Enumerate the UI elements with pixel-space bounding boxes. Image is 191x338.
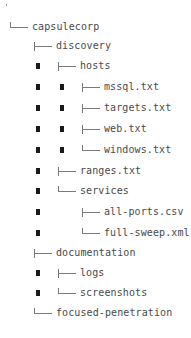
tree-tee-connector-icon	[82, 80, 102, 94]
tree-node-capsulecorp[interactable]: capsulecorp	[0, 20, 191, 34]
tree-tee-connector-icon	[82, 101, 102, 115]
tree-node-label: documentation	[56, 246, 136, 260]
tree-node-targets-txt[interactable]: targets.txt	[0, 101, 191, 115]
tree-node-all-ports-csv[interactable]: all-ports.csv	[0, 205, 191, 219]
tree-node-label: services	[80, 184, 129, 198]
tree-tee-connector-icon	[58, 266, 78, 280]
depth-marker-icon	[60, 105, 64, 111]
tree-node-label: full-sweep.xml	[104, 226, 190, 240]
tree-node-label: windows.txt	[104, 143, 171, 157]
depth-marker-icon	[36, 290, 40, 296]
tree-node-ranges-txt[interactable]: ranges.txt	[0, 164, 191, 178]
tree-node-label: logs	[80, 266, 104, 280]
tree-node-label: discovery	[56, 39, 111, 53]
tree-elbow-connector-icon	[58, 184, 78, 198]
root-dot-marker	[6, 4, 7, 6]
depth-marker-icon	[36, 105, 40, 111]
tree-tee-connector-icon	[58, 164, 78, 178]
tree-elbow-connector-icon	[82, 226, 102, 240]
tree-node-label: all-ports.csv	[104, 205, 184, 219]
tree-node-label: mssql.txt	[104, 80, 159, 94]
tree-node-label: web.txt	[104, 122, 147, 136]
tree-node-label: targets.txt	[104, 101, 171, 115]
tree-node-label: screenshots	[80, 286, 147, 300]
depth-marker-icon	[36, 270, 40, 276]
tree-node-label: capsulecorp	[32, 20, 99, 34]
tree-node-label: ranges.txt	[80, 164, 141, 178]
tree-node-web-txt[interactable]: web.txt	[0, 122, 191, 136]
depth-marker-icon	[36, 147, 40, 153]
tree-tee-connector-icon	[34, 246, 54, 260]
tree-node-logs[interactable]: logs	[0, 266, 191, 280]
tree-elbow-connector-icon	[58, 286, 78, 300]
depth-marker-icon	[36, 230, 40, 236]
depth-marker-icon	[60, 126, 64, 132]
tree-node-screenshots[interactable]: screenshots	[0, 286, 191, 300]
tree-node-full-sweep-xml[interactable]: full-sweep.xml	[0, 226, 191, 240]
tree-node-documentation[interactable]: documentation	[0, 246, 191, 260]
tree-node-focused-penetration[interactable]: focused-penetration	[0, 306, 191, 320]
depth-marker-icon	[36, 126, 40, 132]
depth-marker-icon	[36, 209, 40, 215]
depth-marker-icon	[60, 84, 64, 90]
depth-marker-icon	[36, 63, 40, 69]
tree-elbow-connector-icon	[10, 20, 30, 34]
tree-node-services[interactable]: services	[0, 184, 191, 198]
tree-node-hosts[interactable]: hosts	[0, 59, 191, 73]
tree-node-discovery[interactable]: discovery	[0, 39, 191, 53]
depth-marker-icon	[60, 147, 64, 153]
tree-tee-connector-icon	[34, 39, 54, 53]
tree-node-mssql-txt[interactable]: mssql.txt	[0, 80, 191, 94]
tree-node-label: hosts	[80, 59, 111, 73]
tree-tee-connector-icon	[82, 122, 102, 136]
tree-tee-connector-icon	[82, 205, 102, 219]
depth-marker-icon	[36, 84, 40, 90]
depth-marker-icon	[36, 168, 40, 174]
tree-elbow-connector-icon	[34, 306, 54, 320]
tree-node-label: focused-penetration	[56, 306, 172, 320]
depth-marker-icon	[36, 188, 40, 194]
tree-tee-connector-icon	[58, 59, 78, 73]
tree-elbow-connector-icon	[82, 143, 102, 157]
tree-node-windows-txt[interactable]: windows.txt	[0, 143, 191, 157]
